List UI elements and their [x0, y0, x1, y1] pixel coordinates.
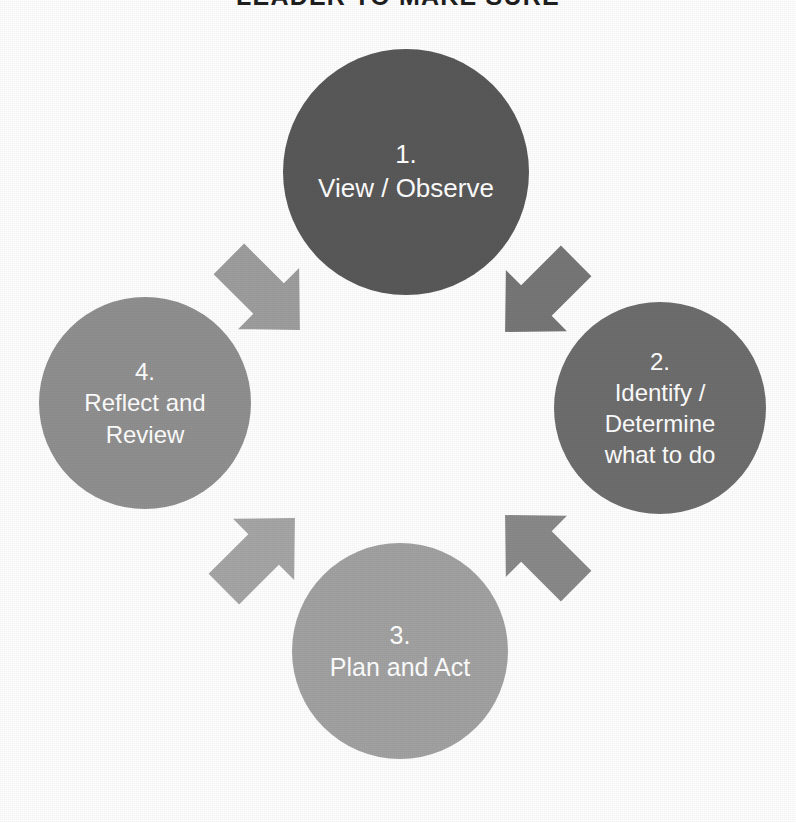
cycle-node-2-label: 2. Identify / Determine what to do — [595, 346, 726, 471]
page-title: LEADER TO MAKE SURE — [0, 0, 796, 14]
cycle-node-plan-and-act[interactable]: 3. Plan and Act — [292, 543, 508, 759]
cycle-node-view-observe[interactable]: 1. View / Observe — [283, 49, 529, 295]
cycle-node-identify-determine[interactable]: 2. Identify / Determine what to do — [554, 302, 766, 514]
diagram-canvas: LEADER TO MAKE SURE 1. View / Observe 2.… — [0, 0, 796, 822]
cycle-node-1-label: 1. View / Observe — [308, 138, 504, 206]
cycle-node-4-label: 4. Reflect and Review — [74, 356, 215, 450]
page-title-text: LEADER TO MAKE SURE — [0, 0, 796, 11]
cycle-node-3-label: 3. Plan and Act — [320, 619, 480, 684]
cycle-node-reflect-and-review[interactable]: 4. Reflect and Review — [39, 297, 251, 509]
